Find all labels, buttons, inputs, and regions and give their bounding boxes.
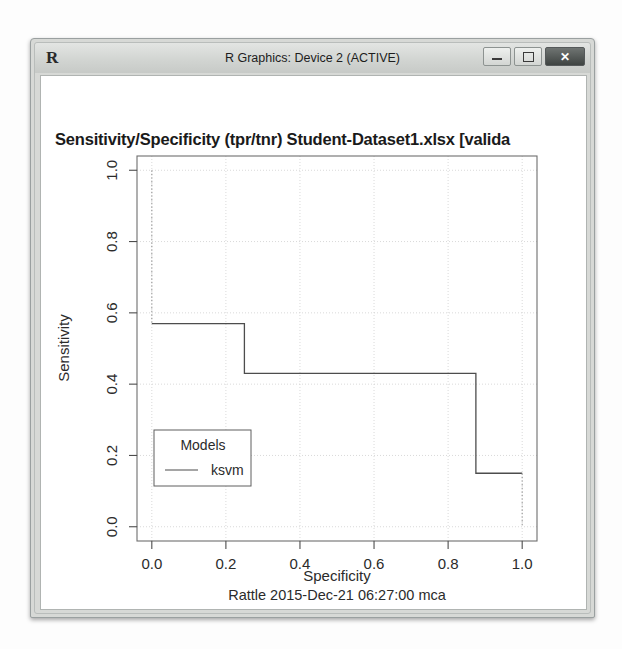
y-tick-label: 1.0 <box>103 160 120 181</box>
y-axis-label: Sensitivity <box>55 314 72 382</box>
x-axis-ticks <box>152 541 522 549</box>
x-tick-label: 0.8 <box>438 555 459 572</box>
y-axis-tick-labels: 0.00.20.40.60.81.0 <box>103 160 120 537</box>
x-tick-label: 1.0 <box>512 555 533 572</box>
maximize-icon <box>523 52 534 62</box>
y-tick-label: 0.4 <box>103 374 120 395</box>
x-tick-label: 0.2 <box>215 555 236 572</box>
x-axis-label: Specificity <box>303 567 371 584</box>
x-tick-label: 0.0 <box>141 555 162 572</box>
minimize-icon <box>492 58 502 60</box>
chart-legend[interactable]: Models ksvm <box>154 430 251 486</box>
legend-entry-ksvm: ksvm <box>211 462 244 478</box>
chart-subtitle: Rattle 2015-Dec-21 06:27:00 mca <box>228 587 447 603</box>
plot-canvas: Sensitivity/Specificity (tpr/tnr) Studen… <box>40 75 587 610</box>
r-graphics-window[interactable]: R R Graphics: Device 2 (ACTIVE) ✕ Sensit… <box>30 38 595 618</box>
minimize-button[interactable] <box>483 47 511 66</box>
y-axis-ticks <box>129 170 137 526</box>
y-tick-label: 0.2 <box>103 445 120 466</box>
close-button[interactable]: ✕ <box>545 47 585 66</box>
window-titlebar[interactable]: R R Graphics: Device 2 (ACTIVE) ✕ <box>35 43 590 73</box>
y-tick-label: 0.0 <box>103 516 120 537</box>
window-controls: ✕ <box>483 47 585 66</box>
legend-title: Models <box>180 437 225 453</box>
close-icon: ✕ <box>560 50 570 64</box>
maximize-button[interactable] <box>514 47 542 66</box>
y-tick-label: 0.6 <box>103 302 120 323</box>
roc-chart: 0.00.20.40.60.81.0 0.00.20.40.60.81.0 Sp… <box>41 76 587 610</box>
y-tick-label: 0.8 <box>103 231 120 252</box>
